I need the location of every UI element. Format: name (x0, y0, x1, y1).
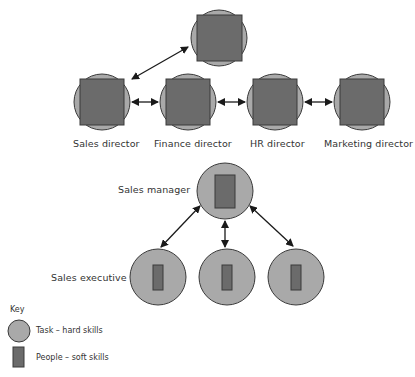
people-square-icon (253, 79, 297, 125)
marketing-director-node (334, 74, 390, 130)
sales-director-node (74, 74, 130, 130)
people-square-icon (340, 79, 384, 125)
sales-executive-node-1 (130, 249, 186, 305)
people-rectangle-icon (291, 265, 301, 290)
sales-executive-node-2 (199, 249, 255, 305)
finance-director-label: Finance director (154, 138, 232, 149)
arrow-manager-exec-3 (250, 206, 293, 246)
sales-executive-label: Sales executive (51, 272, 127, 283)
people-rectangle-icon (222, 265, 232, 290)
people-square-icon (80, 79, 124, 125)
sales-manager-label: Sales manager (118, 184, 190, 195)
marketing-director-label: Marketing director (324, 138, 413, 149)
sales-director-label: Sales director (73, 138, 140, 149)
arrow-manager-exec-1 (161, 206, 200, 247)
people-square-icon (166, 79, 210, 125)
sales-executive-node-3 (268, 249, 324, 305)
key-task-label: Task – hard skills (36, 326, 103, 335)
people-square-icon (197, 15, 242, 61)
people-rectangle-icon (153, 265, 163, 290)
key-people-label: People – soft skills (36, 353, 109, 362)
people-rectangle-icon (215, 175, 235, 208)
sales-manager-node (197, 163, 253, 219)
arrow-sales-to-top (132, 47, 188, 79)
hr-director-node (247, 74, 303, 130)
top-director-node (191, 10, 247, 66)
key-circle-icon (8, 320, 30, 342)
key-title: Key (10, 305, 25, 314)
finance-director-node (160, 74, 216, 130)
hr-director-label: HR director (250, 138, 305, 149)
key-rectangle-icon (13, 347, 24, 367)
diagram-canvas (0, 0, 415, 377)
